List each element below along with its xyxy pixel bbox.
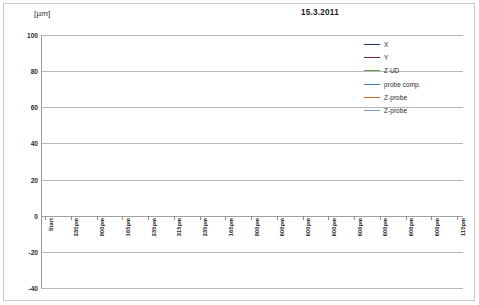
x-axis-tick-label: 235pm	[73, 218, 79, 236]
chart-container: [µm] 15.3.2011 100806040200-20-40 Start2…	[0, 0, 479, 305]
legend-item[interactable]: X	[364, 38, 460, 51]
y-axis-tick-label: 80	[8, 68, 38, 75]
legend-color-swatch	[364, 97, 380, 98]
legend-item[interactable]: Y	[364, 51, 460, 64]
x-axis-tick-label: 600pm	[305, 218, 311, 236]
x-axis-tick-label: 115pm	[460, 218, 466, 236]
x-axis-tick-label: 800pm	[254, 218, 260, 236]
x-axis-tick-label: 800pm	[99, 218, 105, 236]
x-axis-tick-label: 600pm	[408, 218, 414, 236]
chart-title: 15.3.2011	[250, 8, 390, 17]
y-axis-tick-labels: 100806040200-20-40	[2, 35, 38, 288]
gridline	[41, 143, 463, 144]
x-axis-tick-label: 165pm	[228, 218, 234, 236]
legend-color-swatch	[364, 57, 380, 58]
legend-item[interactable]: probe comp.	[364, 78, 460, 91]
x-axis-tick-label: 315pm	[176, 218, 182, 236]
x-axis-tick-label: 235pm	[151, 218, 157, 236]
legend-item-label: probe comp.	[384, 81, 421, 88]
chart-legend: XYZ UDprobe comp.Z-probeZ-probe	[364, 38, 460, 117]
x-axis-tick-label: 600pm	[357, 218, 363, 236]
y-axis-unit-label: [µm]	[34, 9, 51, 18]
legend-item-label: Z UD	[384, 67, 399, 74]
gridline	[41, 35, 463, 36]
legend-item-label: Z-probe	[384, 94, 407, 101]
legend-item-label: X	[384, 41, 388, 48]
y-axis-tick-label: -40	[8, 285, 38, 292]
y-axis-tick-label: 20	[8, 176, 38, 183]
legend-item[interactable]: Z-probe	[364, 91, 460, 104]
legend-item-label: Z-probe	[384, 107, 407, 114]
x-axis-tick-label: 600pm	[279, 218, 285, 236]
x-axis-tick-label: 600pm	[331, 218, 337, 236]
gridline	[41, 288, 463, 289]
legend-item[interactable]: Z-probe	[364, 104, 460, 117]
x-axis-tick-label: 600pm	[434, 218, 440, 236]
gridline	[41, 180, 463, 181]
x-axis-tick-label: 235pm	[202, 218, 208, 236]
gridline	[41, 216, 463, 217]
x-axis-tick-label: 600pm	[382, 218, 388, 236]
y-axis-tick-label: 100	[8, 32, 38, 39]
x-axis-tick-label: Start	[48, 218, 54, 231]
legend-color-swatch	[364, 84, 380, 85]
y-axis-tick-label: -20	[8, 248, 38, 255]
legend-color-swatch	[364, 110, 380, 111]
legend-color-swatch	[364, 70, 380, 71]
x-axis-tick-labels: Start235pm800pm165pm235pm315pm235pm165pm…	[41, 218, 463, 278]
y-axis-tick-label: 60	[8, 104, 38, 111]
legend-item-label: Y	[384, 54, 388, 61]
x-axis-tick-label: 165pm	[125, 218, 131, 236]
legend-item[interactable]: Z UD	[364, 64, 460, 77]
legend-color-swatch	[364, 44, 380, 45]
y-axis-tick-label: 40	[8, 140, 38, 147]
y-axis-tick-label: 0	[8, 212, 38, 219]
